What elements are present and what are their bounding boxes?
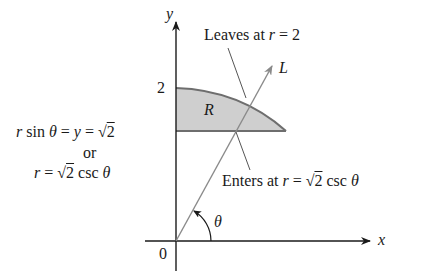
eq2-rest: csc	[74, 164, 102, 181]
sqrt-icon: √	[57, 164, 66, 181]
origin-label: 0	[159, 246, 167, 262]
annotation-leaves: Leaves at r = 2	[204, 27, 300, 43]
y-axis-label: y	[166, 6, 173, 22]
enters-prefix: Enters at	[222, 172, 282, 189]
annotation-enters: Enters at r = √2 csc θ	[222, 173, 359, 189]
annotation-or: or	[83, 145, 96, 161]
enters-eq: =	[289, 172, 306, 189]
sqrt-icon: √	[98, 123, 107, 140]
eq1-sin: sin	[22, 123, 49, 140]
eq1-eq2: =	[81, 123, 98, 140]
annotation-line-eq2: r = √2 csc θ	[34, 165, 110, 181]
eq1-y: y	[74, 123, 81, 140]
eq1-theta: θ	[49, 123, 57, 140]
leaves-rest: = 2	[275, 26, 300, 43]
leader-leaves	[228, 48, 246, 98]
region-r	[176, 88, 286, 131]
eq1-sqrt-arg: 2	[107, 123, 115, 140]
enters-rest: csc	[322, 172, 350, 189]
x-axis-label: x	[378, 232, 385, 248]
leader-enters	[236, 132, 250, 170]
theta-label: θ	[214, 214, 222, 230]
region-label: R	[204, 102, 214, 118]
y-tick-2: 2	[157, 80, 165, 96]
leaves-prefix: Leaves at	[204, 26, 269, 43]
angle-arc-icon	[194, 211, 211, 241]
enters-theta: θ	[351, 172, 359, 189]
annotation-line-eq1: r sin θ = y = √2	[16, 124, 115, 140]
eq1-eq: =	[57, 123, 74, 140]
eq2-sqrt-arg: 2	[66, 164, 74, 181]
eq2-eq: =	[40, 164, 57, 181]
ray-label: L	[279, 60, 288, 76]
eq2-theta: θ	[102, 164, 110, 181]
